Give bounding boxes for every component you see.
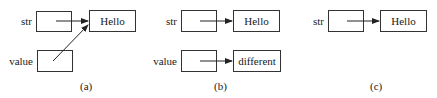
panel-c: str Hello (c) — [0, 0, 437, 98]
object-box-hello: Hello — [380, 10, 427, 32]
variable-label-str: str — [292, 15, 324, 27]
caption-c: (c) — [370, 80, 382, 92]
variable-box-str — [328, 10, 364, 32]
object-text: Hello — [391, 15, 415, 27]
